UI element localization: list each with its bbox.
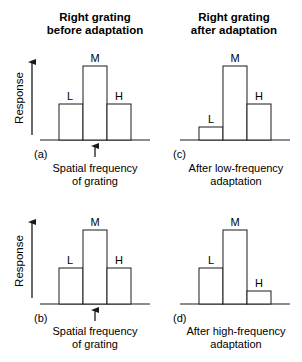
panel-tag: (d) (173, 312, 186, 324)
bar-label-mid: M (90, 216, 99, 228)
column-title-after-line1: Right grating (198, 11, 270, 23)
panel-c: L M H (c) After low-frequency adaptation (173, 52, 290, 187)
panel-a: Response L M H (a) Spatial frequency of … (13, 52, 150, 187)
bar-label-low: L (67, 254, 73, 266)
column-title-before-line2: before adaptation (47, 24, 143, 36)
caption-line1: After high-frequency (186, 325, 286, 337)
bar-mid (223, 66, 247, 140)
bar-high (107, 268, 131, 304)
caption-line2: adaptation (210, 338, 261, 350)
bar-label-low: L (208, 113, 214, 125)
bar-high (247, 291, 271, 304)
panel-tag: (b) (34, 312, 47, 324)
bar-label-mid: M (230, 52, 239, 64)
column-title-after-line2: after adaptation (191, 24, 277, 36)
caption-line2: of grating (72, 338, 118, 350)
bar-label-high: H (115, 254, 123, 266)
panel-b: Response L M H (b) Spatial frequency of … (13, 216, 150, 350)
bar-high (247, 104, 271, 140)
panel-tag: (a) (34, 148, 47, 160)
caption-line1: Spatial frequency (53, 325, 138, 337)
bar-label-mid: M (90, 52, 99, 64)
bar-label-high: H (255, 90, 263, 102)
bar-mid (83, 66, 107, 140)
bar-high (107, 104, 131, 140)
caption-line2: of grating (72, 175, 118, 187)
caption-line1: After low-frequency (189, 162, 284, 174)
bar-mid (223, 230, 247, 304)
panel-tag: (c) (173, 148, 186, 160)
bar-low (199, 268, 223, 304)
y-axis-label: Response (13, 235, 25, 287)
bar-label-high: H (115, 90, 123, 102)
bar-low (59, 268, 83, 304)
bar-label-low: L (67, 90, 73, 102)
bar-mid (83, 230, 107, 304)
bar-label-mid: M (230, 216, 239, 228)
bar-label-low: L (208, 254, 214, 266)
bar-label-high: H (255, 277, 263, 289)
column-title-before-line1: Right grating (59, 11, 131, 23)
caption-line1: Spatial frequency (53, 162, 138, 174)
adaptation-diagram: Right grating before adaptation Right gr… (0, 0, 302, 362)
bar-low (59, 104, 83, 140)
panel-d: L M H (d) After high-frequency adaptatio… (173, 216, 290, 350)
y-axis-label: Response (13, 72, 25, 124)
caption-line2: adaptation (210, 175, 261, 187)
bar-low (199, 127, 223, 140)
